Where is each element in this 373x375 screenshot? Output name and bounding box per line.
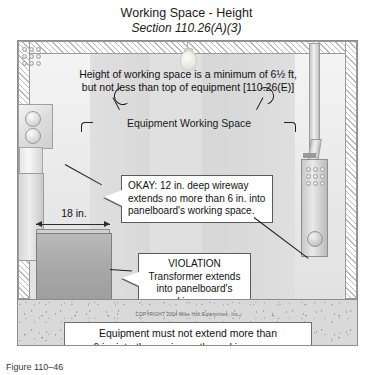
breaker-dot [36, 54, 41, 59]
header-note-line-1: Height of working space is a minimum of … [38, 68, 338, 81]
figure-caption: Figure 110–46 [6, 362, 206, 373]
conduit-riser [309, 43, 320, 149]
page-subtitle: Section 110.26(A)(3) [0, 21, 373, 36]
right-wall-hatch [345, 41, 357, 299]
bottom-banner-text: Equipment must not extend more than 6 in… [93, 327, 282, 346]
transformer-body [36, 233, 112, 301]
left-panel-breaker-dots [22, 47, 41, 66]
bottom-rule-banner: Equipment must not extend more than 6 in… [64, 322, 312, 346]
working-space-bracket-left [81, 122, 93, 132]
panelboard-main-dial [307, 231, 323, 247]
breaker-dot [320, 167, 325, 172]
violation-callout-line-3: into panelboard's [145, 283, 244, 296]
page-title: Working Space - Height [0, 6, 373, 21]
working-space-diagram: Height of working space is a minimum of … [17, 40, 358, 346]
breaker-dot [29, 47, 34, 52]
header-note-line-2: but not less than top of equipment [110.… [38, 81, 338, 94]
breaker-dot [29, 54, 34, 59]
bottom-banner-line-1: Equipment must not extend more than [99, 327, 277, 339]
wireway-knob-lower [25, 128, 41, 144]
okay-callout-tail [104, 190, 122, 206]
panelboard-breaker-dots [306, 167, 325, 186]
floor-edge-line [18, 299, 357, 300]
title-block: Working Space - Height Section 110.26(A)… [0, 6, 373, 36]
breaker-dot [313, 174, 318, 179]
bottom-banner-line-2: 6 in. into the equipment's working space… [93, 341, 282, 347]
breaker-dot [29, 61, 34, 66]
panelboard-clamp [303, 153, 316, 158]
equipment-working-space-label: Equipment Working Space [91, 117, 287, 129]
dimension-arrow-right [104, 221, 110, 227]
dimension-line [36, 224, 110, 225]
breaker-dot [313, 181, 318, 186]
header-note: Height of working space is a minimum of … [38, 68, 338, 94]
copyright-notice: COPYRIGHT 2004 Mike Holt Enterprises, In… [18, 312, 357, 317]
dimension-label: 18 in. [50, 207, 98, 219]
okay-callout-line-2: extends no more than 6 in. into [128, 193, 266, 206]
breaker-dot [320, 181, 325, 186]
violation-callout-tail [122, 272, 139, 286]
breaker-dot [36, 61, 41, 66]
breaker-dot [306, 167, 311, 172]
violation-callout-line-1: VIOLATION [145, 258, 244, 271]
wireway-cabinet [18, 104, 53, 149]
dimension-arrow-left [36, 221, 42, 227]
working-space-bracket-right [284, 122, 296, 132]
breaker-dot [320, 174, 325, 179]
breaker-dot [22, 61, 27, 66]
breaker-dot [313, 167, 318, 172]
wireway-knob-upper [25, 111, 41, 127]
breaker-dot [36, 47, 41, 52]
breaker-dot [22, 54, 27, 59]
breaker-dot [306, 174, 311, 179]
okay-callout-line-1: OKAY: 12 in. deep wireway [128, 180, 266, 193]
breaker-dot [22, 47, 27, 52]
violation-callout-line-2: Transformer extends [145, 271, 244, 284]
okay-callout-line-3: panelboard's working space. [128, 205, 266, 218]
okay-callout: OKAY: 12 in. deep wireway extends no mor… [121, 175, 273, 223]
breaker-dot [306, 181, 311, 186]
